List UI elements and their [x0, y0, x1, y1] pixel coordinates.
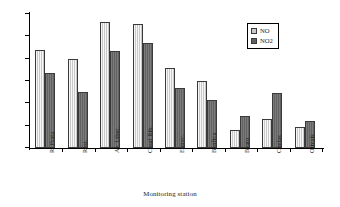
- x-axis-label-0: R. Prata: [48, 132, 55, 153]
- legend-item-no: NO: [251, 26, 273, 36]
- x-axis-label-4: Entrec.: [178, 134, 185, 153]
- bar-no-8: [295, 127, 305, 148]
- x-axis-tick-mark: [192, 148, 193, 152]
- legend-swatch-no2: [251, 38, 257, 44]
- bar-chart: 0.020.040.060.080.0100.0120.0 R. PrataRe…: [0, 0, 340, 207]
- legend-label-no2: NO2: [260, 37, 273, 45]
- bar-no-2: [100, 22, 110, 148]
- x-axis-label-5: Benfica: [210, 133, 217, 153]
- x-axis-label-1: Rest.: [81, 140, 88, 153]
- x-axis-tick-mark: [127, 148, 128, 152]
- x-axis-label-6: Beato: [243, 138, 250, 153]
- x-axis-title: Monitoring station: [0, 190, 340, 197]
- x-axis-tick-mark: [290, 148, 291, 152]
- bar-no-5: [197, 81, 207, 148]
- x-axis-tick-mark: [95, 148, 96, 152]
- x-axis-tick-mark: [62, 148, 63, 152]
- x-axis-label-7: Chelas: [275, 135, 282, 153]
- x-axis-label-3: Casal Rib.: [146, 126, 153, 153]
- bar-no-6: [230, 130, 240, 148]
- bar-no-4: [165, 68, 175, 148]
- legend-item-no2: NO2: [251, 36, 273, 46]
- x-axis-tick-mark: [257, 148, 258, 152]
- legend-swatch-no: [251, 28, 257, 34]
- legend-label-no: NO: [260, 27, 270, 35]
- x-axis-tick-mark: [160, 148, 161, 152]
- bar-no-0: [35, 50, 45, 148]
- bar-no-1: [68, 59, 78, 148]
- chart-legend: NONO2: [247, 23, 279, 49]
- x-axis-tick-mark: [322, 148, 323, 152]
- x-axis-label-2: Av. Liber.: [113, 127, 120, 153]
- bar-no-7: [262, 119, 272, 148]
- bar-no-3: [133, 24, 143, 148]
- x-axis-tick-mark: [225, 148, 226, 152]
- x-axis-label-8: Olivais: [308, 134, 315, 153]
